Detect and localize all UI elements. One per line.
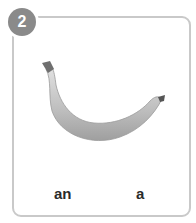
banana-image [30, 55, 170, 155]
question-number-badge: 2 [8, 8, 36, 36]
option-an[interactable]: an [54, 185, 72, 202]
option-a[interactable]: a [136, 185, 144, 202]
